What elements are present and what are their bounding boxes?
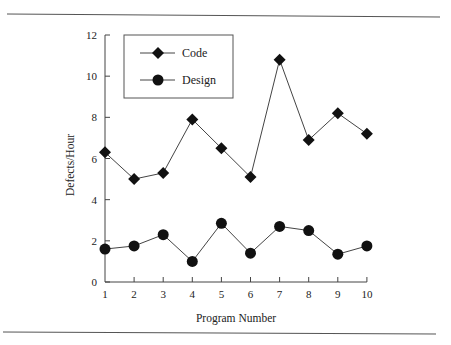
x-tick-label: 10 <box>361 288 373 300</box>
x-tick-label: 6 <box>248 288 254 300</box>
bottom-rule <box>3 332 436 334</box>
y-tick-label: 2 <box>92 235 98 247</box>
series-line <box>105 223 367 261</box>
y-tick-label: 8 <box>92 111 98 123</box>
y-tick-label: 4 <box>92 194 98 206</box>
circle-marker-icon <box>274 221 285 232</box>
diamond-marker-icon <box>274 54 286 66</box>
x-tick-label: 3 <box>160 288 166 300</box>
y-tick-label: 12 <box>86 29 97 41</box>
x-tick-label: 1 <box>102 288 108 300</box>
circle-marker-icon <box>303 225 314 236</box>
x-axis-title: Program Number <box>196 312 276 325</box>
circle-marker-icon <box>129 240 140 251</box>
legend-code-label: Code <box>182 46 207 60</box>
circle-marker-icon <box>332 249 343 260</box>
legend-box <box>124 35 233 98</box>
legend: Code Design <box>124 35 233 98</box>
x-axis-ticks: 12345678910 <box>102 277 373 300</box>
diamond-marker-icon <box>157 167 169 179</box>
diamond-marker-icon <box>361 128 373 140</box>
x-tick-label: 7 <box>277 288 283 300</box>
series-design <box>100 218 373 267</box>
x-tick-label: 8 <box>306 288 312 300</box>
y-axis-title: Defects/Hour <box>64 134 76 196</box>
x-tick-label: 2 <box>131 288 137 300</box>
x-tick-label: 9 <box>335 288 341 300</box>
chart-canvas: 024681012 12345678910 Program Number Def… <box>0 0 451 345</box>
circle-marker-icon <box>245 248 256 259</box>
x-tick-label: 5 <box>219 288 225 300</box>
legend-design-circle-icon <box>153 75 164 86</box>
y-tick-label: 0 <box>92 276 98 288</box>
circle-marker-icon <box>216 218 227 229</box>
circle-marker-icon <box>100 244 111 255</box>
x-tick-label: 4 <box>190 288 196 300</box>
legend-design-label: Design <box>182 73 216 87</box>
circle-marker-icon <box>158 229 169 240</box>
top-rule <box>7 14 440 17</box>
y-tick-label: 10 <box>86 70 98 82</box>
y-tick-label: 6 <box>92 153 98 165</box>
circle-marker-icon <box>361 240 372 251</box>
circle-marker-icon <box>187 256 198 267</box>
